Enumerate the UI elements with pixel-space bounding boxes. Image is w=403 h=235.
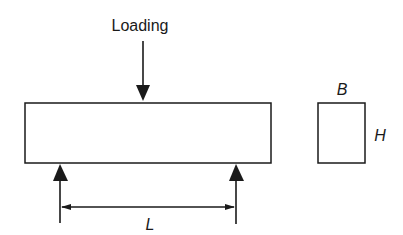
beam-body <box>25 103 271 163</box>
load-arrow-icon <box>136 41 150 101</box>
left-support-arrow-icon <box>53 164 68 223</box>
right-support-arrow-icon <box>229 164 244 224</box>
width-label: B <box>337 81 348 98</box>
beam-diagram: Loading L B H <box>0 0 403 235</box>
loading-label: Loading <box>112 17 169 34</box>
cross-section <box>318 103 365 163</box>
height-label: H <box>374 127 386 144</box>
span-label: L <box>146 216 155 233</box>
span-dimension-line <box>61 204 235 210</box>
